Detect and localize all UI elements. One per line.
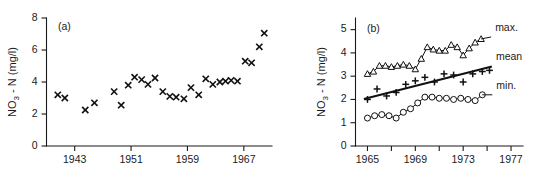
- marker-triangle: [364, 71, 370, 77]
- panel-a-x-tick-label: 1959: [176, 153, 200, 165]
- data-point-cross: [196, 92, 202, 98]
- series-label-mean: mean: [496, 50, 522, 62]
- panel-b-svg: 012345 1965196919731977 NO3 - N (mg/l) (…: [280, 0, 540, 177]
- data-point-cross: [203, 76, 209, 82]
- marker-triangle: [472, 39, 478, 45]
- panel-b-x-tick-label: 1969: [404, 153, 428, 165]
- panel-a-y-axis-ticks: 02468: [32, 11, 47, 151]
- panel-b-y-tick-label: 2: [341, 92, 347, 104]
- marker-circle: [436, 95, 442, 101]
- panel-a-x-tick-label: 1951: [119, 153, 143, 165]
- marker-circle: [408, 106, 414, 112]
- panel-b-y-tick-label: 3: [341, 69, 347, 81]
- marker-circle: [379, 112, 385, 118]
- panel-a-y-tick-label: 8: [32, 11, 38, 23]
- panel-a-y-axis-title: NO3 - N (mg/l): [6, 47, 21, 117]
- chart-panel-b: 012345 1965196919731977 NO3 - N (mg/l) (…: [280, 0, 540, 177]
- marker-circle: [422, 94, 428, 100]
- marker-plus: [421, 74, 428, 81]
- data-point-cross: [228, 77, 234, 83]
- marker-triangle: [412, 66, 418, 72]
- data-point-cross: [145, 81, 151, 87]
- panel-a-y-tick-label: 2: [32, 107, 38, 119]
- marker-circle: [364, 115, 370, 121]
- panel-b-y-axis-ticks: 012345: [341, 22, 356, 150]
- data-point-cross: [256, 44, 262, 50]
- panel-b-y-tick-label: 4: [341, 46, 347, 58]
- marker-circle: [372, 113, 378, 119]
- marker-circle: [443, 95, 449, 101]
- data-point-cross: [173, 94, 179, 100]
- marker-circle: [465, 96, 471, 102]
- marker-plus: [441, 70, 448, 77]
- data-point-cross: [131, 74, 137, 80]
- data-point-cross: [181, 96, 187, 102]
- marker-plus: [460, 79, 467, 86]
- panel-b-x-tick-label: 1973: [451, 153, 475, 165]
- panel-b-x-tick-label: 1965: [356, 153, 380, 165]
- data-point-cross: [210, 81, 216, 87]
- marker-triangle: [400, 61, 406, 67]
- panel-a-y-tick-label: 6: [32, 43, 38, 55]
- data-point-cross: [234, 78, 240, 84]
- marker-circle: [472, 98, 478, 104]
- marker-triangle: [454, 44, 460, 50]
- panel-a-data-points: [55, 30, 268, 113]
- marker-triangle: [430, 46, 436, 52]
- panel-b-y-axis-title: NO3 - N (mg/l): [315, 47, 330, 117]
- data-point-cross: [125, 82, 131, 88]
- marker-circle: [451, 96, 457, 102]
- marker-triangle: [418, 56, 424, 62]
- data-point-cross: [139, 77, 145, 83]
- data-point-cross: [261, 30, 267, 36]
- series-label-min: min.: [496, 79, 516, 91]
- marker-circle: [400, 109, 406, 115]
- data-point-cross: [152, 75, 158, 81]
- data-point-cross: [248, 60, 254, 66]
- marker-circle: [393, 115, 399, 121]
- panel-b-label: (b): [367, 22, 380, 34]
- marker-circle: [429, 94, 435, 100]
- data-point-cross: [55, 92, 61, 98]
- data-point-cross: [167, 93, 173, 99]
- data-point-cross: [111, 89, 117, 95]
- panel-b-y-tick-label: 5: [341, 22, 347, 34]
- data-point-cross: [62, 95, 68, 101]
- data-point-cross: [118, 102, 124, 108]
- panel-b-x-axis-ticks: 1965196919731977: [356, 146, 523, 165]
- panel-a-svg: 02468 1943195119591967 NO3 - N (mg/l) (a…: [0, 0, 280, 177]
- panel-b-y-tick-label: 1: [341, 116, 347, 128]
- panel-a-label: (a): [58, 20, 71, 32]
- data-point-cross: [217, 79, 223, 85]
- data-point-cross: [222, 78, 228, 84]
- panel-b-legend: max.meanmin.: [481, 21, 522, 95]
- data-point-cross: [242, 58, 248, 64]
- data-point-cross: [91, 100, 97, 106]
- panel-b-y-tick-label: 0: [341, 139, 347, 151]
- series-label-max: max.: [495, 21, 518, 33]
- panel-a-y-tick-label: 0: [32, 139, 38, 151]
- marker-circle: [386, 113, 392, 119]
- panel-a-x-tick-label: 1943: [63, 153, 87, 165]
- data-point-cross: [188, 85, 194, 91]
- marker-triangle: [448, 42, 454, 48]
- data-point-cross: [82, 107, 88, 113]
- panel-a-x-axis-ticks: 1943195119591967: [63, 146, 256, 165]
- marker-circle: [415, 100, 421, 106]
- data-point-cross: [160, 89, 166, 95]
- marker-plus: [374, 86, 381, 93]
- marker-triangle: [424, 44, 430, 50]
- panel-b-x-tick-label: 1977: [499, 153, 523, 165]
- marker-circle: [458, 95, 464, 101]
- chart-panel-a: 02468 1943195119591967 NO3 - N (mg/l) (a…: [0, 0, 280, 177]
- marker-plus: [412, 77, 419, 84]
- panel-a-y-tick-label: 4: [32, 75, 38, 87]
- panel-b-series-group: [364, 36, 493, 121]
- panel-a-x-tick-label: 1967: [232, 153, 256, 165]
- figure-container: 02468 1943195119591967 NO3 - N (mg/l) (a…: [0, 0, 540, 177]
